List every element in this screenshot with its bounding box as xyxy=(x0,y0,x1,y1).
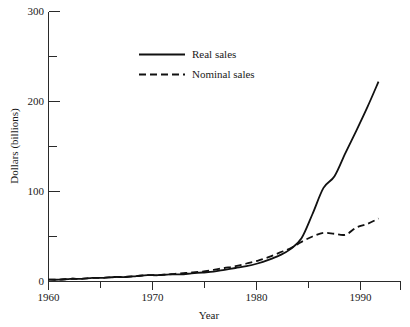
chart-legend: Real sales Nominal sales xyxy=(139,48,255,80)
series-line-nominal-sales xyxy=(49,219,379,280)
x-axis-ticks xyxy=(49,282,401,290)
x-tick-label-1990: 1990 xyxy=(350,291,373,303)
chart-figure: 300 200 100 0 1960 1970 1980 1990 Year D… xyxy=(0,0,410,327)
x-axis-title: Year xyxy=(199,309,220,321)
y-tick-label-100: 100 xyxy=(28,185,45,197)
series-line-real-sales xyxy=(49,82,379,280)
y-tick-label-0: 0 xyxy=(39,275,45,287)
y-tick-label-200: 200 xyxy=(28,95,45,107)
legend-label-nominal-sales: Nominal sales xyxy=(192,68,255,80)
line-chart-canvas: 300 200 100 0 1960 1970 1980 1990 Year D… xyxy=(0,0,410,327)
legend-label-real-sales: Real sales xyxy=(192,48,236,60)
y-tick-label-300: 300 xyxy=(28,5,45,17)
y-axis-title: Dollars (billions) xyxy=(8,108,21,184)
x-tick-label-1960: 1960 xyxy=(38,291,61,303)
x-tick-label-1970: 1970 xyxy=(142,291,165,303)
y-axis-ticks xyxy=(49,12,60,282)
x-tick-label-1980: 1980 xyxy=(246,291,269,303)
